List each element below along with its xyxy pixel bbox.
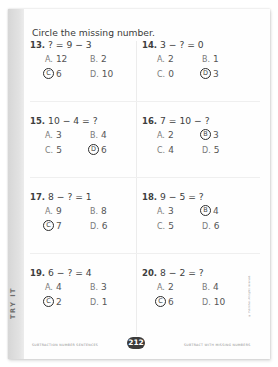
question: 15.10 − 4 = ? — [30, 115, 130, 126]
choice-option[interactable]: B.3 — [90, 281, 135, 294]
choice-letter: C — [43, 220, 54, 231]
choice-value: 5 — [168, 221, 174, 231]
choice-letter: A. — [157, 207, 165, 216]
choice-option[interactable]: A.3 — [45, 129, 90, 142]
choice-option[interactable]: B.4 — [90, 129, 135, 142]
choice-option[interactable]: B4 — [202, 205, 247, 218]
choice-letter: C — [43, 68, 54, 79]
choice-value: 4 — [213, 206, 219, 216]
problem-number: 18. — [142, 192, 157, 202]
choice-value: 3 — [56, 130, 62, 140]
answer-choices: A.2B3C.4D.5 — [157, 129, 242, 157]
answer-choices: A.2B.1C.0D3 — [157, 53, 242, 81]
answer-choices: A.3B4C.5D.6 — [157, 205, 242, 233]
choice-value: 6 — [168, 297, 174, 307]
choice-letter: B. — [202, 283, 210, 292]
page-number-badge: 212 — [127, 337, 145, 349]
equation: 9 − 5 = ? — [160, 191, 204, 202]
choice-option[interactable]: C6 — [157, 296, 202, 309]
choice-letter: B — [200, 129, 211, 140]
choice-letter: D. — [202, 298, 211, 307]
instructions: Circle the missing number. — [32, 27, 155, 38]
choice-option[interactable]: C2 — [45, 296, 90, 309]
choice-letter: D. — [202, 222, 211, 231]
problem-number: 15. — [30, 116, 45, 126]
choice-option[interactable]: C.5 — [157, 220, 202, 233]
choice-option[interactable]: D.1 — [90, 296, 135, 309]
choice-value: 6 — [214, 221, 220, 231]
copyright-notice: © Publisher. All rights reserved. — [248, 275, 251, 317]
choice-option[interactable]: C.4 — [157, 144, 202, 157]
choice-value: 10 — [214, 297, 225, 307]
try-it-label: TRY IT — [9, 287, 23, 319]
equation: 10 − 4 = ? — [48, 115, 98, 126]
choice-value: 3 — [168, 206, 174, 216]
choice-option[interactable]: A.9 — [45, 205, 90, 218]
problem-13: 13.? = 9 − 3A.12B.2C6D.10 — [30, 39, 130, 81]
choice-letter: C — [43, 296, 54, 307]
choice-option[interactable]: D6 — [90, 144, 135, 157]
problem-19: 19.6 − ? = 4A.4B.3C2D.1 — [30, 267, 130, 309]
choice-option[interactable]: C6 — [45, 68, 90, 81]
row-divider — [30, 253, 260, 254]
choice-option[interactable]: D.10 — [202, 296, 247, 309]
choice-option[interactable]: A.2 — [157, 129, 202, 142]
choice-option[interactable]: A.4 — [45, 281, 90, 294]
choice-value: 2 — [168, 130, 174, 140]
choice-option[interactable]: A.2 — [157, 281, 202, 294]
choice-option[interactable]: A.3 — [157, 205, 202, 218]
choice-value: 2 — [101, 54, 107, 64]
choice-option[interactable]: D.5 — [202, 144, 247, 157]
choice-option[interactable]: A.12 — [45, 53, 90, 66]
choice-value: 4 — [56, 282, 62, 292]
choice-letter: D. — [90, 222, 99, 231]
answer-choices: A.3B.4C.5D6 — [45, 129, 130, 157]
answer-choices: A.4B.3C2D.1 — [45, 281, 130, 309]
choice-value: 12 — [56, 54, 67, 64]
choice-option[interactable]: B.1 — [202, 53, 247, 66]
column-divider — [136, 41, 137, 336]
side-strip: TRY IT — [8, 9, 24, 359]
choice-letter: C. — [157, 70, 165, 79]
choice-letter: A. — [45, 55, 53, 64]
question: 19.6 − ? = 4 — [30, 267, 130, 278]
question: 13.? = 9 − 3 — [30, 39, 130, 50]
choice-value: 1 — [102, 297, 108, 307]
footer-left-title: SUBTRACTION NUMBER SENTENCES — [32, 343, 98, 347]
choice-option[interactable]: B.4 — [202, 281, 247, 294]
answer-choices: A.9B.8C7D.6 — [45, 205, 130, 233]
choice-option[interactable]: C7 — [45, 220, 90, 233]
choice-letter: A. — [157, 131, 165, 140]
choice-letter: D — [200, 68, 211, 79]
problem-20: 20.8 − 2 = ?A.2B.4C6D.10 — [142, 267, 242, 309]
question: 14.3 − ? = 0 — [142, 39, 242, 50]
choice-value: 0 — [168, 69, 174, 79]
choice-value: 8 — [101, 206, 107, 216]
choice-letter: B. — [202, 55, 210, 64]
choice-letter: C. — [45, 146, 53, 155]
choice-option[interactable]: B.2 — [90, 53, 135, 66]
choice-value: 4 — [168, 145, 174, 155]
choice-option[interactable]: D.6 — [90, 220, 135, 233]
problem-15: 15.10 − 4 = ?A.3B.4C.5D6 — [30, 115, 130, 157]
choice-letter: D. — [90, 298, 99, 307]
choice-option[interactable]: B3 — [202, 129, 247, 142]
choice-letter: A. — [157, 283, 165, 292]
row-divider — [30, 101, 260, 102]
equation: 3 − ? = 0 — [160, 39, 204, 50]
choice-letter: D. — [202, 146, 211, 155]
choice-letter: A. — [45, 207, 53, 216]
equation: 8 − 2 = ? — [160, 267, 204, 278]
footer-right-title: SUBTRACT WITH MISSING NUMBERS — [184, 343, 251, 347]
choice-value: 3 — [213, 130, 219, 140]
choice-option[interactable]: D.6 — [202, 220, 247, 233]
choice-value: 5 — [214, 145, 220, 155]
choice-option[interactable]: A.2 — [157, 53, 202, 66]
choice-option[interactable]: C.0 — [157, 68, 202, 81]
choice-option[interactable]: C.5 — [45, 144, 90, 157]
choice-option[interactable]: B.8 — [90, 205, 135, 218]
choice-letter: C — [155, 296, 166, 307]
choice-option[interactable]: D3 — [202, 68, 247, 81]
choice-option[interactable]: D.10 — [90, 68, 135, 81]
choice-value: 6 — [56, 69, 62, 79]
